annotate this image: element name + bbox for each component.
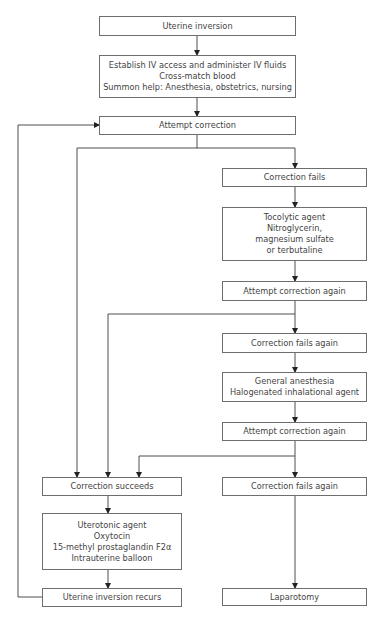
- node-text: Summon help: Anesthesia, obstetrics, nur…: [103, 82, 292, 93]
- node-text: Attempt correction again: [243, 286, 345, 297]
- node-general-anesthesia: General anesthesia Halogenated inhalatio…: [222, 372, 367, 402]
- node-text: Uterine inversion recurs: [63, 592, 161, 603]
- node-attempt-correction-again-2: Attempt correction again: [222, 422, 367, 441]
- node-text: Attempt correction: [159, 120, 236, 131]
- node-initial-management: Establish IV access and administer IV fl…: [99, 55, 296, 98]
- node-text: Correction succeeds: [71, 481, 154, 492]
- node-text: Halogenated inhalational agent: [230, 387, 359, 398]
- node-text: Laparotomy: [270, 592, 319, 603]
- node-text: Attempt correction again: [243, 426, 345, 437]
- node-text: or terbutaline: [267, 245, 323, 256]
- node-text: Cross-match blood: [159, 71, 236, 82]
- node-text: Correction fails again: [251, 481, 338, 492]
- node-text: Oxytocin: [94, 531, 130, 542]
- node-text: Uterine inversion: [162, 21, 232, 32]
- node-attempt-correction-again-1: Attempt correction again: [222, 281, 367, 301]
- node-correction-fails: Correction fails: [222, 168, 367, 187]
- node-text: Correction fails: [264, 172, 326, 183]
- node-text: Intrauterine balloon: [71, 553, 152, 564]
- node-text: Nitroglycerin,: [267, 223, 322, 234]
- node-correction-fails-again-1: Correction fails again: [222, 333, 367, 353]
- node-attempt-correction: Attempt correction: [99, 116, 296, 135]
- node-laparotomy: Laparotomy: [222, 588, 367, 606]
- node-text: General anesthesia: [255, 376, 334, 387]
- node-uterine-inversion-recurs: Uterine inversion recurs: [42, 588, 182, 607]
- node-uterine-inversion: Uterine inversion: [99, 16, 296, 36]
- node-uterotonic-agent: Uterotonic agent Oxytocin 15-methyl pros…: [42, 513, 182, 570]
- node-text: Uterotonic agent: [78, 520, 147, 531]
- node-text: 15-methyl prostaglandin F2α: [53, 542, 172, 553]
- node-text: Correction fails again: [251, 338, 338, 349]
- node-correction-fails-again-2: Correction fails again: [222, 477, 367, 496]
- node-tocolytic-agent: Tocolytic agent Nitroglycerin, magnesium…: [222, 207, 367, 261]
- node-text: Establish IV access and administer IV fl…: [109, 60, 286, 71]
- node-text: Tocolytic agent: [264, 212, 326, 223]
- node-correction-succeeds: Correction succeeds: [42, 477, 182, 496]
- node-text: magnesium sulfate: [255, 234, 334, 245]
